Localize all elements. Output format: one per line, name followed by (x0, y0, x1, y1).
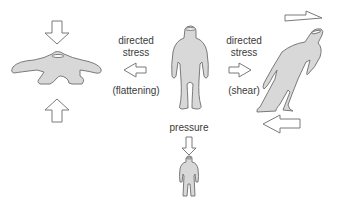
compression-arrow-top-icon (45, 21, 69, 44)
shear-arrow-bottom-icon (263, 115, 300, 133)
sheared-figure (257, 29, 323, 112)
directed-stress-left-arrow-icon (124, 63, 146, 77)
pressure-arrow-down-icon (182, 137, 196, 155)
shear-arrow-top-icon (285, 11, 322, 21)
left-stress-label-line1: directed (116, 35, 156, 47)
directed-stress-right-arrow-icon (229, 63, 251, 77)
shrunk-figure (180, 156, 199, 196)
left-stress-label-line2: stress (116, 47, 156, 59)
right-stress-label-line2: stress (224, 47, 264, 59)
compression-arrow-bottom-icon (45, 99, 69, 122)
flattened-figure (12, 52, 101, 85)
left-stress-note: (flattening) (108, 85, 164, 97)
original-figure (172, 26, 209, 109)
pressure-label: pressure (166, 122, 212, 134)
diagram-canvas (0, 0, 337, 204)
right-stress-note: (shear) (224, 85, 264, 97)
right-stress-label-line1: directed (224, 35, 264, 47)
